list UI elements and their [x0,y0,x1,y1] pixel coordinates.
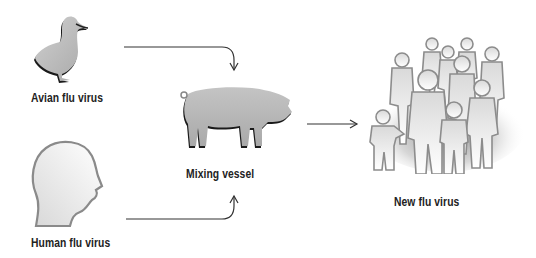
pig-tail [181,92,187,98]
arrow-avian-to-mixing [124,47,234,70]
new-label: New flu virus [394,195,459,209]
arrow-human-to-mixing [126,196,234,219]
crowd-icon [364,34,524,174]
mixing-node [178,84,296,154]
new-node [364,34,524,174]
mixing-label: Mixing vessel [186,167,254,181]
pig-icon [178,84,296,154]
